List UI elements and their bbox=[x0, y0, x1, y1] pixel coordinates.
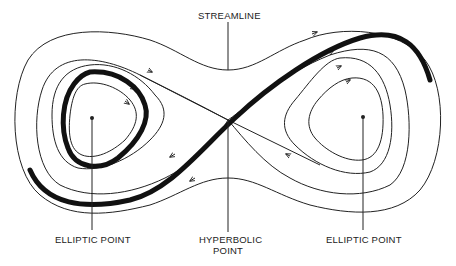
label-elliptic-left: ELLIPTIC POINT bbox=[55, 234, 131, 245]
right-loop-2 bbox=[228, 49, 409, 194]
right-loop-3 bbox=[284, 58, 391, 174]
label-hyperbolic-2: POINT bbox=[213, 245, 243, 256]
left-loop-4 bbox=[69, 83, 136, 157]
elliptic-point-left-marker bbox=[90, 116, 94, 120]
right-loop-4 bbox=[309, 78, 383, 160]
elliptic-point-right-marker bbox=[361, 115, 365, 119]
label-elliptic-right: ELLIPTIC POINT bbox=[326, 234, 402, 245]
label-streamline: STREAMLINE bbox=[198, 10, 261, 21]
label-hyperbolic-1: HYPERBOLIC bbox=[199, 234, 262, 245]
streamline-diagram bbox=[0, 0, 456, 266]
